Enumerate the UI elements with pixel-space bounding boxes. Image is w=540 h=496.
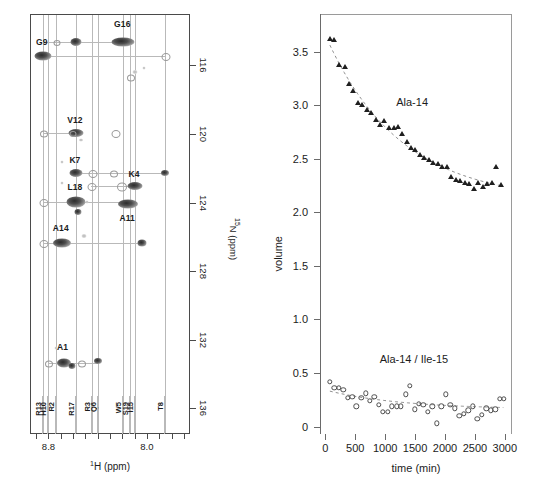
volume-tick-label-2.5: 2.5: [274, 153, 308, 165]
n15-tick-label-128: 128: [198, 263, 209, 279]
datapoint-0-7: [359, 102, 365, 107]
hsqc-peak-14: [88, 170, 95, 176]
n15-axis-title: 15N (ppm): [228, 218, 241, 260]
volume-tick-2.5: [314, 159, 320, 160]
hsqc-peak-blob-29: [138, 240, 147, 247]
hsqc-peak-9: [40, 131, 46, 136]
hsqc-peak-32: [45, 361, 51, 366]
n15-tick-label-132: 132: [198, 332, 209, 348]
peak-label-G16: G16: [114, 19, 130, 29]
volume-tick-0.5: [314, 373, 320, 374]
datapoint-0-10: [373, 117, 379, 122]
n15-tick-120: [190, 134, 196, 135]
hsqc-peak-blob-19: [87, 183, 96, 191]
residue-stem-Q6: [97, 396, 98, 434]
hsqc-peak-5: [133, 70, 138, 74]
hsqc-peak-11: [112, 130, 119, 136]
volume-tick-label-2.0: 2.0: [274, 206, 308, 218]
chart-annotation-1: Ala-14 / Ile-15: [380, 353, 448, 365]
n15-tick-128: [190, 271, 196, 272]
h1-tick-2: [61, 434, 62, 439]
volume-tick-1.5: [314, 266, 320, 267]
n15-tick-124: [190, 203, 196, 204]
hsqc-peak-27: [53, 239, 71, 248]
hsqc-peak-blob-35: [94, 358, 102, 364]
hsqc-peak-17: [128, 182, 143, 190]
h1-axis-title: 1H (ppm): [90, 460, 130, 472]
hsqc-peak-22: [66, 196, 85, 207]
hsqc-peak-19: [87, 183, 94, 189]
hsqc-peak-blob-17: [128, 182, 143, 190]
hsqc-peak-10: [69, 131, 74, 135]
datapoint-0-1: [331, 37, 337, 42]
hsqc-peak-1: [70, 38, 81, 46]
datapoint-0-26: [444, 164, 450, 169]
peak-label-V12: V12: [67, 115, 82, 125]
residue-gridline-R13: [43, 15, 44, 433]
hsqc-peak-blob-18: [117, 183, 127, 192]
time-tick-500: [355, 434, 356, 440]
hsqc-spectrum-panel: 15N (ppm) 1H (ppm) G9G16V12K7K4L18A11A14…: [0, 0, 270, 496]
hsqc-peak-blob-3: [54, 40, 61, 46]
n15-superscript: 15: [234, 218, 241, 226]
hsqc-peak-blob-32: [45, 361, 53, 368]
datapoint-0-38: [498, 182, 504, 187]
hsqc-peak-23: [118, 199, 138, 208]
volume-tick-3.0: [314, 105, 320, 106]
datapoint-0-36: [489, 180, 495, 185]
h1-tick-0: [36, 434, 37, 439]
hsqc-peak-blob-11: [112, 130, 121, 138]
hsqc-peak-33: [68, 363, 75, 369]
time-tick-2500: [475, 434, 476, 440]
h1-tick-10: [159, 434, 160, 439]
hsqc-peak-blob-30: [81, 234, 86, 238]
volume-tick-label-3.5: 3.5: [274, 46, 308, 58]
hsqc-peak-blob-34: [78, 361, 86, 368]
hsqc-peak-blob-21: [60, 182, 63, 185]
peak-label-K4: K4: [128, 169, 139, 179]
residue-gridline-R17: [76, 15, 77, 433]
hsqc-peak-13: [69, 169, 82, 177]
residue-gridline-I15: [135, 15, 136, 433]
datapoint-0-4: [346, 81, 352, 86]
hsqc-peak-24: [39, 199, 46, 205]
hsqc-peak-35: [94, 358, 102, 364]
time-tick-label-0: 0: [322, 442, 328, 454]
h1-tick-1: [48, 434, 49, 439]
chart-annotation-0: Ala-14: [396, 96, 428, 108]
hsqc-peak-blob-13: [69, 169, 82, 177]
hsqc-peak-blob-12: [79, 139, 83, 142]
time-tick-label-2000: 2000: [433, 442, 457, 454]
residue-stem-R17: [75, 396, 76, 434]
hsqc-peak-blob-6: [127, 74, 135, 81]
residue-stem-R2: [55, 396, 56, 434]
hsqc-peak-29: [138, 240, 147, 247]
time-tick-label-1000: 1000: [373, 442, 397, 454]
datapoint-0-12: [381, 118, 387, 123]
hsqc-peak-4: [161, 53, 168, 59]
h1-axis-title-text: H (ppm): [94, 461, 130, 472]
h1-tick-7: [122, 434, 123, 439]
datapoint-0-3: [342, 64, 348, 69]
volume-tick-label-1.5: 1.5: [274, 260, 308, 272]
hsqc-peak-2: [112, 38, 135, 47]
hsqc-peak-blob-4: [161, 53, 170, 61]
hsqc-peak-6: [127, 74, 133, 79]
hsqc-peak-blob-0: [34, 52, 51, 61]
volume-tick-label-0: 0: [274, 421, 308, 433]
hsqc-peak-21: [60, 182, 63, 185]
figure-root: 15N (ppm) 1H (ppm) G9G16V12K7K4L18A11A14…: [0, 0, 540, 496]
hsqc-peak-blob-5: [133, 70, 138, 74]
hsqc-peak-blob-14: [88, 170, 97, 178]
time-tick-0: [325, 434, 326, 440]
volume-tick-1.0: [314, 319, 320, 320]
time-tick-1000: [385, 434, 386, 440]
n15-tick-label-136: 136: [198, 400, 209, 416]
hsqc-peak-blob-2: [112, 38, 135, 47]
n15-tick-label-124: 124: [198, 195, 209, 211]
hsqc-peak-blob-20: [60, 161, 63, 164]
time-tick-3000: [505, 434, 506, 440]
peak-label-L18: L18: [67, 182, 82, 192]
hsqc-peak-20: [60, 161, 63, 164]
datapoint-0-5: [350, 88, 356, 93]
